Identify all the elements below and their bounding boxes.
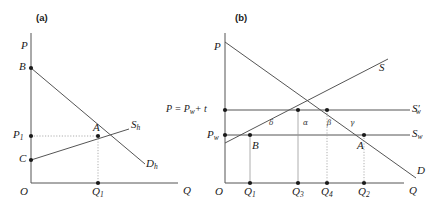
panel-b-point-world-price xyxy=(223,133,227,137)
panel-b-point-supply-tariff xyxy=(296,108,300,112)
panel-b-world-price-sub: w xyxy=(214,133,219,142)
panel-a-equilibrium-label: A xyxy=(93,122,100,133)
panel-b-q2-text: Q xyxy=(358,185,366,197)
panel-b-area-delta-label: δ xyxy=(269,119,274,127)
panel-b-q1-sub: 1 xyxy=(252,190,256,199)
panel-a-price-label-text: P xyxy=(13,128,20,140)
panel-b-point-demand-tariff xyxy=(325,108,329,112)
figure-canvas: (a) P Q O B C A P1 Q1 Sh Dh (b) P Q O S … xyxy=(0,0,444,211)
panel-b-world-price-label: Pw xyxy=(207,129,219,140)
panel-b-tariff-price-sub: w xyxy=(190,107,195,116)
panel-a-quantity-label-sub: 1 xyxy=(100,190,104,199)
panel-b-world-supply-label-sub: w xyxy=(418,132,423,141)
panel-b-world-supply-label: Sw xyxy=(412,128,423,139)
panel-a-quantity-label: Q1 xyxy=(92,186,104,197)
panel-a-tag: (a) xyxy=(36,13,48,23)
panel-b-q2-sub: 2 xyxy=(366,190,370,199)
panel-b-q3-label: Q3 xyxy=(292,186,304,197)
panel-b-area-beta-label: β xyxy=(327,119,331,127)
panel-a-demand-curve xyxy=(31,68,145,164)
panel-a-point-p1 xyxy=(29,134,33,138)
panel-b-supply-curve xyxy=(225,59,388,143)
panel-a-x-axis-label: Q xyxy=(183,185,191,196)
panel-b-tariff-price-label: P = Pw+ t xyxy=(166,104,207,114)
panel-a-demand-curve-label-text: D xyxy=(146,157,154,169)
panel-b-point-b xyxy=(248,133,252,137)
panel-a-supply-curve-label-text: S xyxy=(131,118,137,130)
panel-b-supply-curve-label: S xyxy=(379,62,385,73)
panel-a-supply-intercept-label: C xyxy=(19,153,26,164)
panel-b-q4-sub: 4 xyxy=(329,190,333,199)
panel-a-origin-label: O xyxy=(20,186,28,197)
panel-a-supply-curve-label-sub: h xyxy=(137,123,141,132)
panel-b-q4-text: Q xyxy=(321,185,329,197)
panel-b-world-supply-tariff-label: S′w xyxy=(412,103,425,114)
panel-b-q1-label: Q1 xyxy=(244,186,256,197)
panel-b-tariff-price-tail: + t xyxy=(195,103,207,114)
panel-b-tariff-price-head: P = P xyxy=(166,103,190,114)
panel-b-x-axis-label: Q xyxy=(409,185,417,196)
panel-a-y-axis-label: P xyxy=(21,40,28,51)
panel-b-world-price-text: P xyxy=(207,128,214,140)
panel-b-q1-text: Q xyxy=(244,185,252,197)
panel-b-demand-curve-label: D xyxy=(417,165,425,176)
panel-b-point-a xyxy=(362,133,366,137)
panel-b-q3-text: Q xyxy=(292,185,300,197)
panel-a-point-b xyxy=(29,66,33,70)
panel-a-demand-curve-label: Dh xyxy=(146,158,158,169)
panel-b-point-b-label: B xyxy=(252,140,259,151)
panel-b-q2-label: Q2 xyxy=(358,186,370,197)
panel-a-supply-curve xyxy=(31,129,129,160)
panel-b-point-tariff-price xyxy=(223,108,227,112)
panel-b-world-supply-label-text: S xyxy=(412,127,418,139)
panel-a-demand-intercept-label: B xyxy=(19,61,26,72)
panel-a-price-label-sub: 1 xyxy=(20,133,24,142)
diagram-svg xyxy=(0,0,444,211)
panel-a-quantity-label-text: Q xyxy=(92,185,100,197)
panel-b-point-a-label: A xyxy=(357,140,364,151)
panel-b-area-alpha-label: α xyxy=(303,119,308,127)
panel-b-origin-label: O xyxy=(215,186,223,197)
panel-b-area-gamma-label: γ xyxy=(350,119,354,127)
panel-a-price-label: P1 xyxy=(13,129,23,140)
panel-b-q3-sub: 3 xyxy=(300,190,304,199)
panel-b-y-axis-label: P xyxy=(214,41,221,52)
panel-a-point-c xyxy=(29,158,33,162)
panel-a-supply-curve-label: Sh xyxy=(131,119,140,130)
panel-b-tag: (b) xyxy=(235,13,247,23)
panel-a-demand-curve-label-sub: h xyxy=(154,162,158,171)
panel-b-q4-label: Q4 xyxy=(321,186,333,197)
panel-b-world-supply-tariff-label-sub: w xyxy=(416,107,421,116)
panel-a-point-a xyxy=(96,134,100,138)
